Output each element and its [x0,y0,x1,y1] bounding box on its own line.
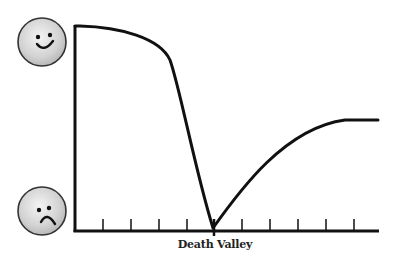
death-valley-diagram [0,0,396,269]
x-axis-ticks [103,219,354,236]
axes [74,25,380,232]
happy-face-icon [18,18,66,66]
sad-face-icon [18,187,66,235]
trend-curve [75,26,378,228]
death-valley-label: Death Valley [150,238,280,251]
